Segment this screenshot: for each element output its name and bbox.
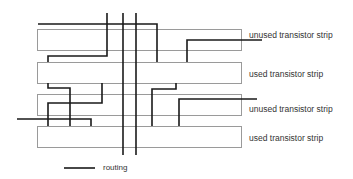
legend-routing-label: routing xyxy=(103,163,127,172)
strip-label-3: unused transistor strip xyxy=(249,104,333,114)
strip-label-2: used transistor strip xyxy=(249,69,323,79)
routing-wire-10 xyxy=(179,99,257,126)
transistor-strip-3 xyxy=(38,95,242,116)
routing-wire-9 xyxy=(152,83,176,126)
strip-label-1: unused transistor strip xyxy=(249,30,333,40)
strip-label-4: used transistor strip xyxy=(249,133,323,143)
routing-wire-8 xyxy=(17,119,91,126)
transistor-strip-4 xyxy=(38,127,242,148)
transistor-strip-2 xyxy=(38,63,242,84)
routing-wire-2 xyxy=(48,13,107,62)
transistor-routing-diagram xyxy=(0,0,353,179)
